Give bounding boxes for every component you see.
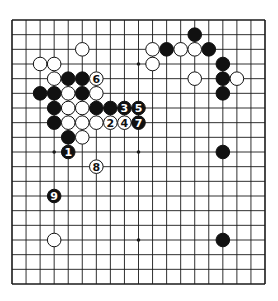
black-stone: [160, 43, 174, 57]
move-number-label: 8: [93, 161, 101, 174]
white-stone: [61, 101, 75, 115]
white-stone: [75, 43, 89, 57]
move-number-label: 3: [121, 102, 129, 115]
star-point: [137, 238, 141, 242]
move-number-label: 9: [50, 190, 58, 203]
black-stone: [216, 87, 230, 101]
white-stone: [47, 233, 61, 247]
white-stone: [146, 57, 160, 71]
white-stone: [174, 43, 188, 57]
white-stone: [230, 72, 244, 86]
move-number-label: 2: [107, 117, 115, 130]
white-stone: [90, 116, 104, 130]
move-number-label: 4: [121, 117, 129, 130]
white-stone: [90, 87, 104, 101]
black-stone: [188, 28, 202, 42]
white-stone: [61, 116, 75, 130]
black-stone: [47, 116, 61, 130]
move-number-label: 6: [93, 73, 101, 86]
black-stone: [47, 101, 61, 115]
white-stone: [146, 43, 160, 57]
black-stone: [216, 145, 230, 159]
black-stone: [216, 233, 230, 247]
black-stone: [61, 72, 75, 86]
white-stone: [188, 72, 202, 86]
white-stone: [75, 131, 89, 145]
black-stone: [75, 72, 89, 86]
star-point: [137, 62, 141, 66]
white-stone: [47, 57, 61, 71]
move-number-label: 1: [64, 146, 72, 159]
black-stone: [202, 43, 216, 57]
black-stone: [75, 87, 89, 101]
black-stone: [216, 57, 230, 71]
black-stone: [47, 87, 61, 101]
go-board: 123456789: [0, 0, 278, 301]
black-stone: [104, 101, 118, 115]
move-number-label: 7: [135, 117, 143, 130]
black-stone: [61, 131, 75, 145]
white-stone: [33, 57, 47, 71]
white-stone: [75, 101, 89, 115]
white-stone: [61, 87, 75, 101]
move-number-label: 5: [135, 102, 143, 115]
white-stone: [75, 116, 89, 130]
white-stone: [47, 72, 61, 86]
star-point: [137, 150, 141, 154]
star-point: [52, 150, 56, 154]
black-stone: [33, 87, 47, 101]
black-stone: [216, 72, 230, 86]
black-stone: [90, 101, 104, 115]
white-stone: [188, 43, 202, 57]
